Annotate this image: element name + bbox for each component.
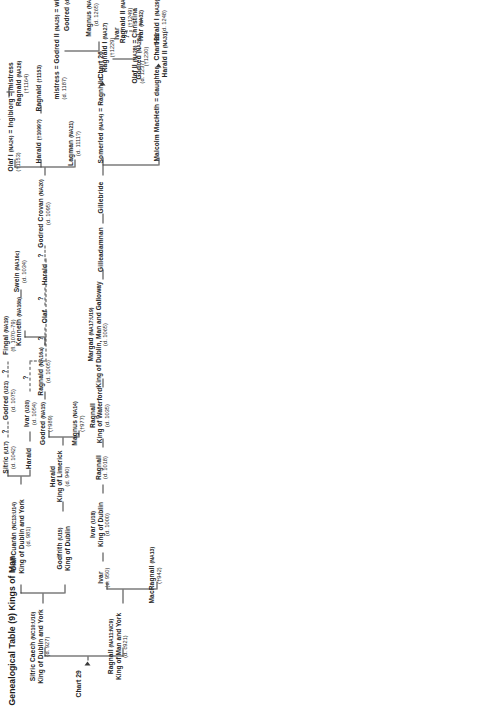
arrow-to-chart-29 — [84, 661, 90, 665]
node-name: mistress = Godred II (NA25) = wife — [52, 0, 60, 99]
connector — [62, 437, 63, 445]
node-ragnald-na16a: Ragnald (NA16a) (d. 1005) — [36, 345, 50, 397]
node-name: Harald — [24, 441, 31, 475]
node-name: Fingal (NA19) — [1, 307, 9, 363]
connector — [14, 166, 74, 167]
uncertain-connector — [29, 360, 45, 361]
node-harald-i-na29: Harald I (NA29) (d. 1248) — [152, 0, 166, 45]
node-date: (†942) — [155, 547, 161, 603]
node-date: (fl. 1070–79) — [9, 307, 15, 363]
node-name: Godred (d.1275?) — [62, 0, 70, 33]
connector — [102, 165, 103, 175]
node-harald-limerick: Harald King of Limerick (d. 940) — [48, 445, 69, 507]
connector — [102, 164, 158, 165]
connector — [122, 589, 123, 603]
node-name: Godred (NA15) — [38, 399, 46, 447]
node-date: (d. 1248) — [160, 0, 166, 45]
node-name: Gilleadamnan — [96, 223, 103, 275]
node-date: (d. 1034) — [20, 247, 26, 295]
node-name: Godred (U21) — [1, 377, 9, 423]
node-date: (d. 1054) — [30, 391, 36, 435]
node-title: King of Waterford — [95, 387, 102, 443]
node-title: King of Man and York — [114, 603, 121, 689]
node-name: Olaf Cuarán (NC13:U14) — [9, 484, 17, 588]
node-name: Godfrith (U15) — [55, 511, 63, 585]
node-magnus-na33: Magnus (NA33) (d. 1265) — [84, 0, 98, 39]
node-godred-u21: Godred (U21) (d. 1075) — [1, 377, 15, 423]
node-date: (d. 1000) — [103, 493, 109, 555]
node-harald-1099: Harald (†1099?) — [34, 111, 42, 163]
node-swein-na16c: Swein (NA16c) (d. 1034) — [12, 247, 26, 295]
node-name: Ragnald (NA26) — [14, 55, 22, 111]
node-name: Ivar — [96, 561, 103, 593]
node-ragnall-waterford: Ragnall King of Waterford (d. 1035) — [88, 387, 109, 443]
node-date: (d. 1111?) — [74, 119, 80, 167]
node-gillebride: Gillebride — [96, 175, 103, 219]
node-sitric-caech: Sitric Caech (NC10:U10) King of Dublin a… — [28, 603, 49, 689]
node-name: Ragnall — [94, 446, 101, 488]
node-date: (d. 940) — [63, 445, 69, 507]
node-fingal-na19: Fingal (NA19) (fl. 1070–79) — [1, 307, 15, 363]
node-name: Harald — [48, 445, 55, 507]
connector — [20, 592, 64, 593]
connector — [42, 593, 43, 603]
node-name: Margad (NA17:U19) — [86, 279, 94, 389]
node-godred-na15: Godred (NA15) (†989) — [38, 399, 52, 447]
node-name: MacRagnall (NA13) — [147, 547, 155, 603]
node-title: King of Dublin and York — [36, 603, 43, 689]
node-name: Magnus (NA33) — [84, 0, 92, 39]
node-name: Harald I (NA29) — [152, 0, 160, 45]
node-gilleadamnan: Gilleadamnan — [96, 223, 103, 275]
node-title: King of Dublin and York — [17, 484, 24, 588]
node-title: King of Dublin — [96, 493, 103, 555]
node-name: Malcolm MacHeth = daughter — [152, 57, 159, 161]
node-godfrith-u15: Godfrith (U15) King of Dublin — [55, 511, 70, 585]
node-malcolm-macheth: Malcolm MacHeth = daughter — [152, 57, 159, 161]
node-ivar-u18: Ivar (U18) King of Dublin (d. 1000) — [88, 493, 109, 555]
node-name: Ragnall — [88, 387, 95, 443]
uncertain-marker: ? — [36, 336, 43, 340]
cross-ref-chart-29[interactable]: Chart 29 — [74, 670, 81, 697]
node-godred-crovan: Godred Crovan (NA20) (d. 1095) — [36, 175, 50, 251]
uncertain-marker: ? — [36, 253, 43, 257]
node-date: (†1164) — [22, 55, 28, 111]
node-date: (d. 927) — [43, 603, 49, 689]
node-date: (d. 1265) — [92, 0, 98, 39]
node-title: King of Limerick — [55, 445, 62, 507]
node-ivar-u20: Ivar (U20) (d. 1054) — [22, 391, 36, 435]
uncertain-marker: ? — [0, 429, 7, 433]
node-name: Ragnall (NA11:NC9) — [106, 603, 114, 689]
node-ivar-950: Ivar (d. 950) — [96, 561, 110, 593]
node-sitric-u17: Sitric (U17) (d. 1042) — [1, 437, 15, 477]
node-name: Ragnald (†1153) — [34, 59, 42, 111]
node-date: (d. 1075) — [9, 377, 15, 423]
node-name: Lagman (NA21) — [66, 119, 74, 167]
node-olaf-cuaran: Olaf Cuarán (NC13:U14) King of Dublin an… — [9, 484, 30, 588]
node-date: (d. 981) — [24, 484, 30, 588]
connector — [8, 87, 9, 97]
node-name: Harald (†1099?) — [34, 111, 42, 163]
node-name: Ragnald I (NA27) — [100, 19, 108, 75]
node-godred-1275: Godred (d.1275?) — [62, 0, 70, 33]
connector — [24, 330, 25, 337]
connector — [112, 58, 134, 59]
node-title: King of Dublin, Man and Galloway — [94, 279, 101, 389]
node-date: (d. 1065) — [101, 279, 107, 389]
node-name: Ivar (U20) — [22, 391, 30, 435]
node-magnus-na14: Magnus (NA14) (†977) — [70, 397, 84, 449]
node-lagman-na21: Lagman (NA21) (d. 1111?) — [66, 119, 80, 167]
node-date: (d. 1042) — [9, 437, 15, 477]
connector — [98, 41, 99, 51]
node-date: (†977) — [78, 397, 84, 449]
node-ragnall-na11: Ragnall (NA11:NC9) King of Man and York … — [106, 603, 127, 689]
node-name: Olaf I (NA24) = Ingibiorg = mistress — [6, 97, 14, 171]
node-name: Gillebride — [96, 175, 103, 219]
node-ragnald-ii-na30: Ragnald II (NA30) (†1249) — [118, 0, 132, 43]
node-name: Godred Crovan (NA20) — [36, 175, 44, 251]
node-harald-olaf: Harald — [24, 441, 31, 475]
node-name: Ivar (U18) — [88, 493, 96, 555]
uncertain-connector — [45, 259, 46, 361]
connector — [6, 91, 14, 92]
node-ragnald-na26: Ragnald (NA26) (†1164) — [14, 55, 28, 111]
connector — [44, 167, 45, 175]
